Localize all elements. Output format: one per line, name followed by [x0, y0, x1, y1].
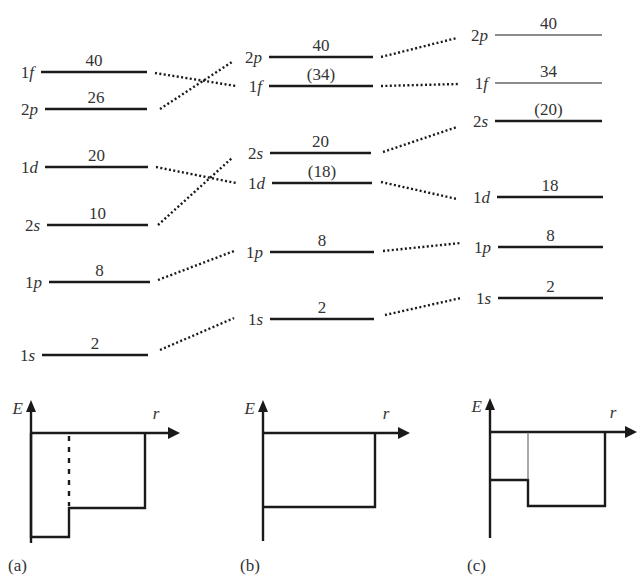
level-1d: (18)1d [248, 162, 372, 193]
orbital-label: 1p [246, 243, 263, 262]
orbital-label: 1p [25, 273, 42, 292]
arrow-up-icon [485, 398, 495, 410]
orbital-label: 1d [21, 158, 39, 177]
orbital-label: 1f [475, 74, 491, 93]
arrow-right-icon [398, 427, 410, 439]
connector-ab-2p [160, 62, 232, 109]
orbital-label: 2p [21, 100, 38, 119]
level-1d: 201d [21, 146, 148, 177]
axis-label-r: r [610, 403, 617, 422]
potential-well-outline [31, 433, 145, 537]
arrow-right-icon [625, 426, 637, 438]
arrow-up-icon [26, 400, 36, 412]
connector-ab-1d [156, 167, 236, 183]
level-1p: 81p [474, 226, 603, 257]
shell-model-level-diagram: 401f262p201d102s81p21s402p(34)1f202s(18)… [0, 0, 639, 575]
level-column-c: 402p341f(20)2s181d81p21s [471, 14, 603, 308]
occupancy-number: 8 [546, 226, 555, 245]
level-1s: 21s [248, 298, 374, 329]
occupancy-number: 8 [95, 261, 104, 280]
level-column-b: 402p(34)1f202s(18)1d81p21s [245, 36, 374, 329]
level-1p: 81p [246, 231, 374, 262]
potential-well-outline [263, 433, 375, 507]
orbital-label: 2p [471, 26, 488, 45]
occupancy-number: (20) [534, 100, 562, 119]
orbital-label: 1s [248, 310, 264, 329]
occupancy-number: 10 [89, 204, 106, 223]
level-2s: (20)2s [473, 100, 602, 131]
potential-panel-a: Er(a) [8, 399, 180, 575]
orbital-label: 1f [21, 63, 37, 82]
level-2s: 202s [248, 132, 371, 163]
potential-well-outline [490, 432, 605, 506]
connector-ab-1s [160, 318, 234, 350]
occupancy-number: 8 [318, 231, 327, 250]
orbital-label: 2s [473, 112, 489, 131]
connector-bc-1d [381, 182, 457, 199]
level-1f: 341f [475, 62, 602, 93]
occupancy-number: 2 [91, 334, 100, 353]
orbital-label: 2s [248, 144, 264, 163]
panel-label: (a) [8, 556, 27, 575]
level-1d: 181d [473, 176, 603, 207]
occupancy-number: 20 [88, 146, 105, 165]
occupancy-number: 20 [312, 132, 329, 151]
level-1p: 81p [25, 261, 150, 292]
connector-bc-1s [385, 298, 461, 315]
level-2p: 402p [471, 14, 602, 45]
orbital-label: 1f [249, 77, 265, 96]
level-2p: 402p [245, 36, 373, 67]
connector-bc-1p [383, 243, 461, 251]
occupancy-number: 40 [540, 14, 557, 33]
arrow-up-icon [258, 400, 268, 412]
connector-ab-1f [155, 73, 236, 86]
occupancy-number: (34) [307, 65, 335, 84]
occupancy-number: (18) [308, 162, 336, 181]
connector-ab-2s [158, 158, 232, 225]
level-2p: 262p [21, 88, 147, 119]
level-1s: 21s [476, 277, 603, 308]
occupancy-number: 34 [540, 62, 558, 81]
occupancy-number: 2 [318, 298, 327, 317]
panel-label: (c) [467, 556, 486, 575]
potential-wells: Er(a)Er(b)Er(c) [8, 397, 637, 575]
panel-label: (b) [240, 556, 260, 575]
orbital-label: 2s [25, 216, 41, 235]
connector-bc-2p [381, 38, 457, 57]
occupancy-number: 2 [546, 277, 555, 296]
occupancy-number: 40 [86, 51, 103, 70]
level-1f: (34)1f [249, 65, 373, 96]
orbital-label: 1s [476, 289, 492, 308]
level-1s: 21s [20, 334, 148, 365]
occupancy-number: 40 [313, 36, 330, 55]
orbital-label: 2p [245, 48, 262, 67]
level-column-a: 401f262p201d102s81p21s [20, 51, 150, 365]
potential-panel-b: Er(b) [240, 399, 410, 575]
energy-levels: 401f262p201d102s81p21s402p(34)1f202s(18)… [20, 14, 603, 365]
axis-label-E: E [471, 397, 483, 416]
orbital-label: 1s [20, 346, 36, 365]
occupancy-number: 26 [88, 88, 105, 107]
orbital-label: 1d [248, 174, 266, 193]
occupancy-number: 18 [542, 176, 559, 195]
arrow-right-icon [168, 427, 180, 439]
axis-label-E: E [244, 399, 256, 418]
axis-label-r: r [383, 404, 390, 423]
level-1f: 401f [21, 51, 147, 82]
orbital-label: 1p [474, 238, 491, 257]
orbital-label: 1d [473, 188, 491, 207]
connector-bc-1f [381, 84, 459, 86]
potential-panel-c: Er(c) [467, 397, 637, 575]
connector-ab-1p [158, 251, 234, 280]
axis-label-E: E [12, 399, 24, 418]
level-2s: 102s [25, 204, 148, 235]
connector-bc-2s [383, 127, 457, 152]
axis-label-r: r [153, 404, 160, 423]
